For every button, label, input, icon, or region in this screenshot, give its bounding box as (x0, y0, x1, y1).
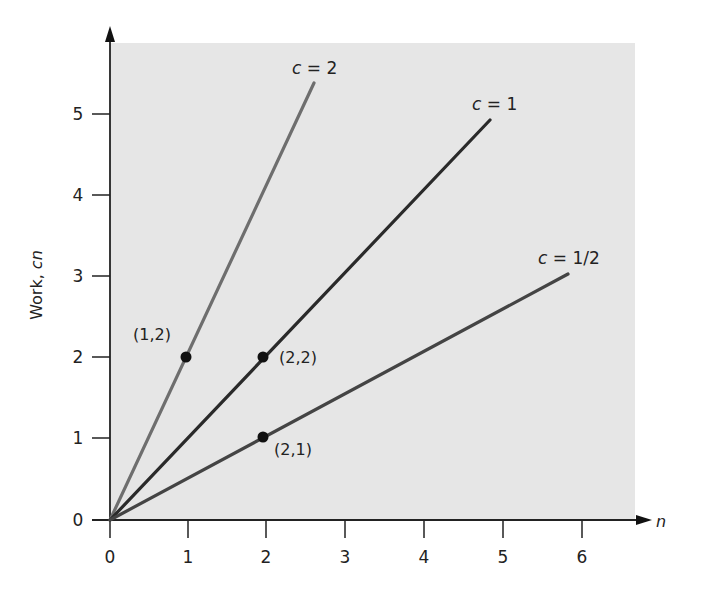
x-tick-5: 5 (498, 547, 509, 567)
x-tick-3: 3 (340, 547, 351, 567)
x-tick-0: 0 (105, 547, 116, 567)
y-tick-0: 0 (73, 510, 84, 530)
series-label-c1: c = 1 (472, 94, 517, 114)
work-chart: 0 1 2 3 4 5 0 1 2 3 4 5 6 Work, cn n c =… (0, 0, 701, 593)
y-axis-arrow-icon (105, 26, 115, 42)
point-label-2-2: (2,2) (279, 348, 317, 367)
x-tick-2: 2 (261, 547, 272, 567)
y-tick-1: 1 (73, 428, 84, 448)
x-axis-arrow-icon (636, 515, 652, 525)
point-label-2-1: (2,1) (274, 440, 312, 459)
y-ticks (92, 114, 110, 438)
x-ticks (110, 520, 582, 538)
data-point-2-2 (258, 352, 269, 363)
y-axis-title: Work, cn (27, 250, 46, 320)
y-tick-4: 4 (73, 185, 84, 205)
y-tick-3: 3 (73, 266, 84, 286)
data-point-2-1 (258, 432, 269, 443)
data-point-1-2 (181, 352, 192, 363)
series-label-c2: c = 2 (292, 58, 337, 78)
x-tick-1: 1 (183, 547, 194, 567)
x-axis-title: n (656, 512, 666, 531)
y-tick-5: 5 (73, 104, 84, 124)
series-label-chalf: c = 1/2 (538, 248, 600, 268)
y-tick-2: 2 (73, 347, 84, 367)
x-tick-6: 6 (577, 547, 588, 567)
x-tick-4: 4 (419, 547, 430, 567)
point-label-1-2: (1,2) (133, 325, 171, 344)
